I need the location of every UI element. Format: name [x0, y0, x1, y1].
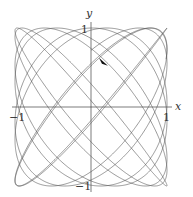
lissajous-chart: x y −1 1 1 −1 [0, 0, 193, 197]
y-tick-1: 1 [81, 23, 88, 36]
x-axis-label: x [175, 100, 182, 113]
x-tick-1: 1 [163, 111, 170, 124]
y-axis-label: y [85, 7, 93, 20]
y-tick-neg1: −1 [75, 180, 91, 193]
x-tick-neg1: −1 [9, 111, 25, 124]
